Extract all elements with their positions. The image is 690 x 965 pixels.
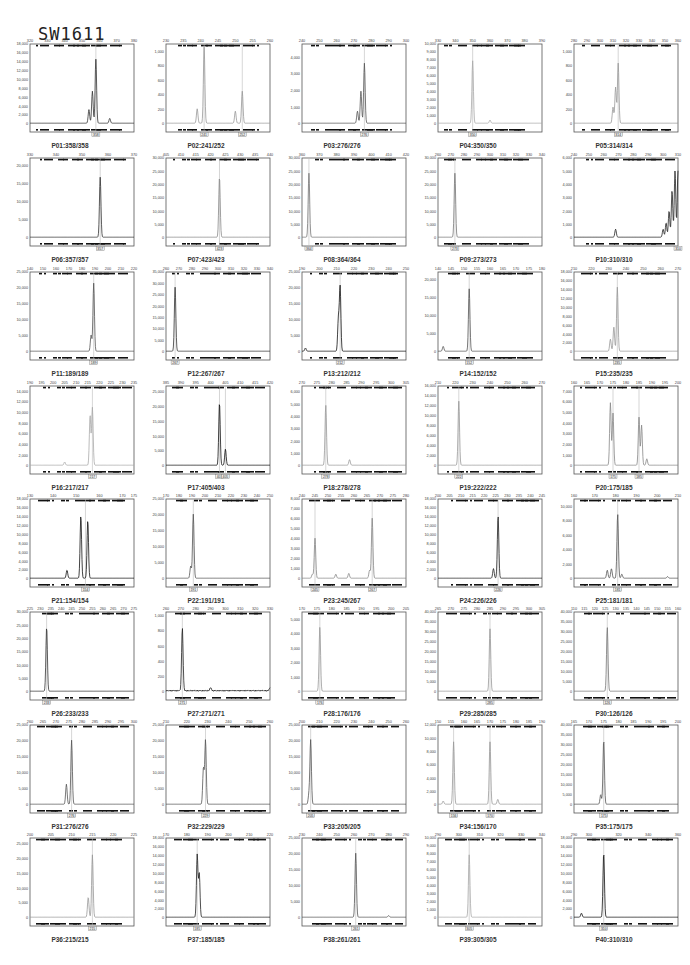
svg-text:0: 0	[162, 350, 164, 354]
svg-text:30,000: 30,000	[16, 610, 28, 614]
svg-text:4,000: 4,000	[562, 183, 572, 187]
svg-text:180: 180	[539, 267, 545, 271]
peak-trace	[302, 173, 406, 237]
chart-panel-p36: 20020521021522022505,00010,00015,00020,0…	[4, 830, 136, 944]
svg-text:290: 290	[403, 833, 409, 837]
peak-trace	[438, 517, 542, 578]
svg-text:4,000: 4,000	[18, 105, 28, 109]
chart-svg: 11011512012513013514014515015516005,0001…	[548, 604, 680, 712]
chart-label: P32:229/229	[140, 823, 272, 830]
svg-text:25,000: 25,000	[16, 842, 28, 846]
svg-text:170: 170	[513, 267, 519, 271]
svg-text:220: 220	[267, 833, 273, 837]
svg-text:260: 260	[657, 267, 663, 271]
svg-text:4,000: 4,000	[18, 443, 28, 447]
svg-text:370: 370	[316, 153, 322, 157]
svg-text:245: 245	[68, 607, 74, 611]
peak-trace	[166, 514, 270, 578]
chart-label: P19:222/222	[412, 484, 544, 491]
svg-text:15,000: 15,000	[424, 296, 436, 300]
chart-svg: 27027528028529029530030501,0002,0003,000…	[276, 378, 408, 486]
svg-text:235: 235	[180, 39, 186, 43]
svg-text:205: 205	[308, 814, 314, 818]
svg-text:380: 380	[333, 153, 339, 157]
svg-text:175: 175	[314, 607, 320, 611]
svg-text:150: 150	[654, 607, 660, 611]
svg-text:360: 360	[675, 39, 681, 43]
svg-text:350: 350	[469, 39, 475, 43]
svg-text:10,000: 10,000	[424, 737, 436, 741]
svg-text:185: 185	[343, 607, 349, 611]
svg-text:170: 170	[487, 720, 493, 724]
svg-text:0: 0	[570, 350, 572, 354]
svg-text:280: 280	[571, 39, 577, 43]
peak-trace	[166, 629, 270, 692]
svg-text:280: 280	[368, 39, 374, 43]
svg-text:165: 165	[474, 720, 480, 724]
chart-svg: 20020521021522022505,00010,00015,00020,0…	[4, 830, 136, 938]
svg-text:4,000: 4,000	[426, 777, 436, 781]
svg-text:0: 0	[26, 803, 28, 807]
peak-trace	[302, 627, 406, 691]
svg-text:5,000: 5,000	[562, 411, 572, 415]
svg-text:4,000: 4,000	[154, 899, 164, 903]
svg-text:170: 170	[487, 814, 493, 818]
svg-text:310: 310	[675, 247, 681, 251]
chart-panel-p18: 27027528028529029530030501,0002,0003,000…	[276, 378, 408, 492]
svg-text:290: 290	[358, 381, 364, 385]
svg-text:300: 300	[222, 607, 228, 611]
svg-text:0: 0	[434, 690, 436, 694]
svg-text:10,000: 10,000	[152, 435, 164, 439]
svg-text:0: 0	[298, 690, 300, 694]
svg-text:0: 0	[570, 464, 572, 468]
svg-text:290: 290	[584, 39, 590, 43]
svg-text:195: 195	[662, 381, 668, 385]
svg-text:16,000: 16,000	[424, 506, 436, 510]
svg-text:220: 220	[184, 720, 190, 724]
svg-text:252: 252	[239, 133, 245, 137]
svg-text:410: 410	[385, 153, 391, 157]
svg-text:165: 165	[584, 381, 590, 385]
svg-text:235: 235	[131, 381, 137, 385]
svg-text:6,000: 6,000	[290, 390, 300, 394]
peak-trace	[302, 63, 406, 123]
svg-text:6,000: 6,000	[290, 517, 300, 521]
svg-text:250: 250	[385, 720, 391, 724]
svg-text:15,000: 15,000	[16, 650, 28, 654]
svg-text:160: 160	[571, 381, 577, 385]
svg-text:25,000: 25,000	[288, 836, 300, 840]
svg-text:205: 205	[403, 607, 409, 611]
svg-text:12,000: 12,000	[560, 297, 572, 301]
svg-text:0: 0	[26, 464, 28, 468]
svg-text:14,000: 14,000	[16, 390, 28, 394]
svg-text:189: 189	[91, 361, 97, 365]
svg-text:310: 310	[228, 267, 234, 271]
svg-text:2,000: 2,000	[562, 210, 572, 214]
svg-text:191: 191	[190, 588, 196, 592]
peak-trace	[574, 403, 678, 466]
svg-text:314: 314	[615, 133, 621, 137]
svg-text:290: 290	[207, 607, 213, 611]
svg-text:185: 185	[526, 720, 532, 724]
svg-text:5,000: 5,000	[290, 334, 300, 338]
svg-text:200: 200	[27, 833, 33, 837]
svg-text:275: 275	[314, 381, 320, 385]
chart-svg: 22523023524024525025526026527027505,0001…	[4, 604, 136, 712]
svg-text:350: 350	[79, 39, 85, 43]
peak-trace	[574, 628, 678, 692]
svg-text:200: 200	[225, 833, 231, 837]
chart-panel-p37: 17018019020021022002,0004,0006,0008,0001…	[140, 830, 272, 944]
svg-text:200: 200	[50, 381, 56, 385]
chart-label: P38:261/261	[276, 936, 408, 943]
svg-text:175: 175	[610, 381, 616, 385]
svg-text:290: 290	[500, 607, 506, 611]
svg-text:7,000: 7,000	[562, 390, 572, 394]
svg-text:20,000: 20,000	[152, 405, 164, 409]
svg-text:0: 0	[26, 350, 28, 354]
svg-text:20,000: 20,000	[152, 305, 164, 309]
chart-panel-p32: 21022023024025026005,00010,00015,00020,0…	[140, 717, 272, 831]
svg-text:5,000: 5,000	[562, 680, 572, 684]
svg-text:800: 800	[158, 629, 164, 633]
svg-text:35,000: 35,000	[560, 733, 572, 737]
chart-label: P07:423/423	[140, 256, 272, 263]
